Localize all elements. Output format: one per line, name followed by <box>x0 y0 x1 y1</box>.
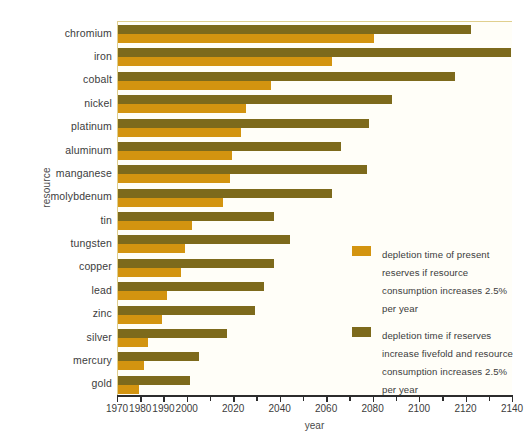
bar-group <box>118 22 513 45</box>
bar-present-reserves <box>118 221 192 230</box>
x-axis-tick-label: 1990 <box>152 403 174 414</box>
legend-label: depletion time if reserves increase five… <box>382 330 513 395</box>
bar-group <box>118 162 513 185</box>
x-axis-tick-label: 2040 <box>269 403 291 414</box>
bar-fivefold-reserves <box>118 25 471 34</box>
bar-fivefold-reserves <box>118 352 199 361</box>
legend-swatch <box>352 327 371 337</box>
category-label-column: chromiumironcobaltnickelplatinumaluminum… <box>30 22 112 392</box>
legend: depletion time of present reserves if re… <box>352 244 522 406</box>
x-axis-tick <box>326 395 327 402</box>
category-label: copper <box>30 260 112 272</box>
bar-group <box>118 139 513 162</box>
bar-present-reserves <box>118 174 230 183</box>
bar-present-reserves <box>118 81 271 90</box>
category-label: chromium <box>30 27 112 39</box>
bar-present-reserves <box>118 315 162 324</box>
x-axis-tick-label: 2060 <box>315 403 337 414</box>
category-label: lead <box>30 284 112 296</box>
bar-group <box>118 116 513 139</box>
bar-group <box>118 45 513 68</box>
x-axis-tick <box>117 395 118 402</box>
bar-present-reserves <box>118 268 181 277</box>
bar-fivefold-reserves <box>118 189 332 198</box>
x-axis-tick-label: 2020 <box>222 403 244 414</box>
x-axis-tick-label: 2000 <box>176 403 198 414</box>
legend-entry: depletion time if reserves increase five… <box>352 325 522 397</box>
x-axis-tick <box>187 395 188 402</box>
category-label: nickel <box>30 97 112 109</box>
x-axis-tick <box>233 395 234 402</box>
x-axis-tick <box>349 395 350 401</box>
category-label: tungsten <box>30 237 112 249</box>
category-label: iron <box>30 50 112 62</box>
bar-present-reserves <box>118 385 139 394</box>
legend-swatch <box>352 246 371 256</box>
bar-fivefold-reserves <box>118 376 190 385</box>
bar-present-reserves <box>118 361 144 370</box>
x-axis-tick <box>256 395 257 401</box>
x-axis-tick <box>163 395 164 402</box>
x-axis-tick <box>140 395 141 402</box>
x-axis-title: year <box>117 420 512 431</box>
depletion-time-bar-chart: resource chromiumironcobaltnickelplatinu… <box>0 0 527 444</box>
category-label: platinum <box>30 120 112 132</box>
bar-present-reserves <box>118 198 223 207</box>
bar-fivefold-reserves <box>118 72 455 81</box>
bar-fivefold-reserves <box>118 48 511 57</box>
category-label: molybdenum <box>30 190 112 202</box>
category-label: manganese <box>30 167 112 179</box>
bar-fivefold-reserves <box>118 142 341 151</box>
bar-fivefold-reserves <box>118 306 255 315</box>
bar-present-reserves <box>118 244 185 253</box>
bar-fivefold-reserves <box>118 95 392 104</box>
category-label: zinc <box>30 307 112 319</box>
bar-present-reserves <box>118 104 246 113</box>
category-label: mercury <box>30 354 112 366</box>
bar-group <box>118 69 513 92</box>
bar-fivefold-reserves <box>118 165 367 174</box>
bar-fivefold-reserves <box>118 329 227 338</box>
bar-present-reserves <box>118 57 332 66</box>
x-axis-tick <box>303 395 304 401</box>
x-axis-tick <box>280 395 281 402</box>
category-label: tin <box>30 214 112 226</box>
bar-present-reserves <box>118 338 148 347</box>
x-axis-tick-label: 1970 <box>106 403 128 414</box>
category-label: gold <box>30 377 112 389</box>
bar-fivefold-reserves <box>118 282 264 291</box>
bar-present-reserves <box>118 128 241 137</box>
bar-fivefold-reserves <box>118 212 274 221</box>
bar-group <box>118 209 513 232</box>
x-axis-tick-label: 1980 <box>129 403 151 414</box>
bar-fivefold-reserves <box>118 119 369 128</box>
category-label: aluminum <box>30 144 112 156</box>
category-label: cobalt <box>30 73 112 85</box>
bar-fivefold-reserves <box>118 235 290 244</box>
bar-present-reserves <box>118 151 232 160</box>
x-axis-tick <box>210 395 211 401</box>
bar-group <box>118 186 513 209</box>
bar-present-reserves <box>118 34 374 43</box>
category-label: silver <box>30 331 112 343</box>
bar-fivefold-reserves <box>118 259 274 268</box>
legend-entry: depletion time of present reserves if re… <box>352 244 522 316</box>
bar-group <box>118 92 513 115</box>
legend-label: depletion time of present reserves if re… <box>382 249 507 314</box>
bar-present-reserves <box>118 291 167 300</box>
